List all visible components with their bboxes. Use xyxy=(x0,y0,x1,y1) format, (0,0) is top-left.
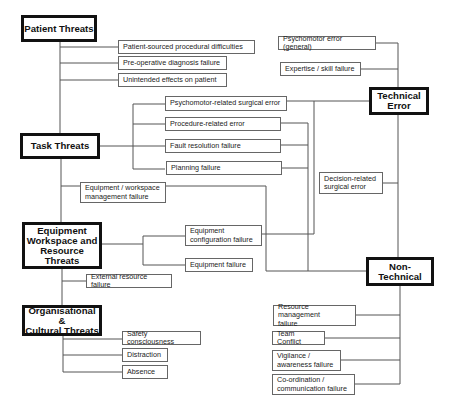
item-equipment-failure: Equipment failure xyxy=(185,258,253,272)
item-resource-management-failure: Resource management failure xyxy=(273,305,356,326)
threat-error-diagram: Patient Threats Task Threats Equipment W… xyxy=(0,0,450,415)
item-label: Co-ordination / communication failure xyxy=(277,376,347,393)
item-label: Absence xyxy=(127,368,155,377)
item-label: Procedure-related error xyxy=(170,120,245,129)
item-decision-related-error: Decision-related surgical error xyxy=(319,172,383,194)
category-patient-threats: Patient Threats xyxy=(21,15,97,42)
item-planning-failure: Planning failure xyxy=(166,161,282,175)
item-label: Vigilance / awareness failure xyxy=(277,352,333,369)
item-label: Patient-sourced procedural difficulties xyxy=(123,43,243,52)
item-team-conflict: Team Conflict xyxy=(272,331,325,345)
item-equipment-config-failure: Equipment configuration failure xyxy=(185,225,262,246)
item-label: Psychomotor error (general) xyxy=(283,35,371,52)
item-label: External resource failure xyxy=(91,273,167,290)
item-label: Expertise / skill failure xyxy=(285,65,355,74)
item-label: Resource management failure xyxy=(278,303,351,329)
item-expertise-skill-failure: Expertise / skill failure xyxy=(280,62,361,76)
item-safety-consciousness: Safety consciousness xyxy=(122,331,201,345)
item-label: Unintended effects on patient xyxy=(123,76,216,85)
item-equipment-workspace-mgmt-failure: Equipment / workspace management failure xyxy=(80,182,166,203)
item-patient-sourced-difficulties: Patient-sourced procedural difficulties xyxy=(118,40,255,54)
item-fault-resolution-failure: Fault resolution failure xyxy=(165,139,281,153)
item-label: Fault resolution failure xyxy=(170,142,241,151)
item-label: Pre-operative diagnosis failure xyxy=(123,59,220,68)
item-preoperative-diagnosis-failure: Pre-operative diagnosis failure xyxy=(118,56,227,70)
category-technical-error: Technical Error xyxy=(369,87,429,115)
item-coordination-communication-failure: Co-ordination / communication failure xyxy=(272,374,355,395)
item-label: Equipment configuration failure xyxy=(190,227,253,244)
item-label: Safety consciousness xyxy=(127,330,196,347)
category-non-technical: Non- Technical xyxy=(366,257,434,286)
category-equipment-threats: Equipment Workspace and Resource Threats xyxy=(22,222,102,269)
item-psychomotor-related-error: Psychomotor-related surgical error xyxy=(165,96,287,111)
item-label: Distraction xyxy=(127,351,161,360)
item-label: Equipment / workspace management failure xyxy=(85,184,160,201)
item-label: Equipment failure xyxy=(190,261,246,270)
item-vigilance-awareness-failure: Vigilance / awareness failure xyxy=(272,350,341,371)
item-label: Team Conflict xyxy=(277,330,320,347)
item-absence: Absence xyxy=(122,365,168,379)
item-psychomotor-error-general: Psychomotor error (general) xyxy=(278,36,376,50)
item-unintended-effects: Unintended effects on patient xyxy=(118,73,227,87)
category-task-threats: Task Threats xyxy=(20,133,100,159)
item-external-resource-failure: External resource failure xyxy=(86,274,172,288)
item-label: Psychomotor-related surgical error xyxy=(170,99,280,108)
item-label: Planning failure xyxy=(171,164,221,173)
item-label: Decision-related surgical error xyxy=(324,175,376,192)
item-distraction: Distraction xyxy=(122,348,168,362)
category-organisational-threats: Organisational & Cultural Threats xyxy=(22,305,102,336)
item-procedure-related-error: Procedure-related error xyxy=(165,117,281,131)
